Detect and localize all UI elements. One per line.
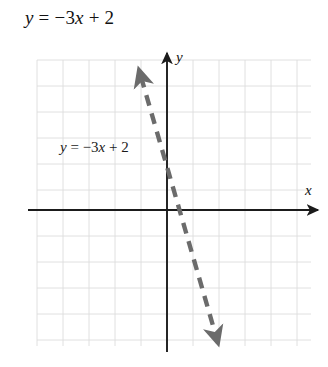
inline-eq-coefficient: 3 xyxy=(91,139,99,155)
title-eq-coefficient: 3 xyxy=(65,7,75,28)
title-eq-sign: − xyxy=(54,7,65,28)
title-eq-variable: x xyxy=(75,7,84,28)
inline-eq-constant: 2 xyxy=(121,139,129,155)
inline-eq-lhs: y xyxy=(60,139,67,155)
inline-equation-label: y = −3x + 2 xyxy=(60,139,129,156)
inline-eq-operator: + xyxy=(109,139,117,155)
inline-eq-equals: = xyxy=(70,139,78,155)
title-eq-constant: 2 xyxy=(105,7,115,28)
coordinate-plane xyxy=(0,40,328,367)
title-eq-equals: = xyxy=(39,7,50,28)
x-axis-label: x xyxy=(305,182,312,199)
title-equation: y = −3x + 2 xyxy=(25,7,114,29)
y-axis-label: y xyxy=(176,49,183,66)
title-eq-lhs: y xyxy=(25,7,34,28)
linear-function-figure: y = −3x + 2 xyxy=(0,0,328,367)
inline-eq-variable: x xyxy=(99,139,106,155)
inline-eq-sign: − xyxy=(83,139,91,155)
title-eq-operator: + xyxy=(89,7,100,28)
function-line xyxy=(139,70,218,343)
grid-lines xyxy=(37,60,311,346)
